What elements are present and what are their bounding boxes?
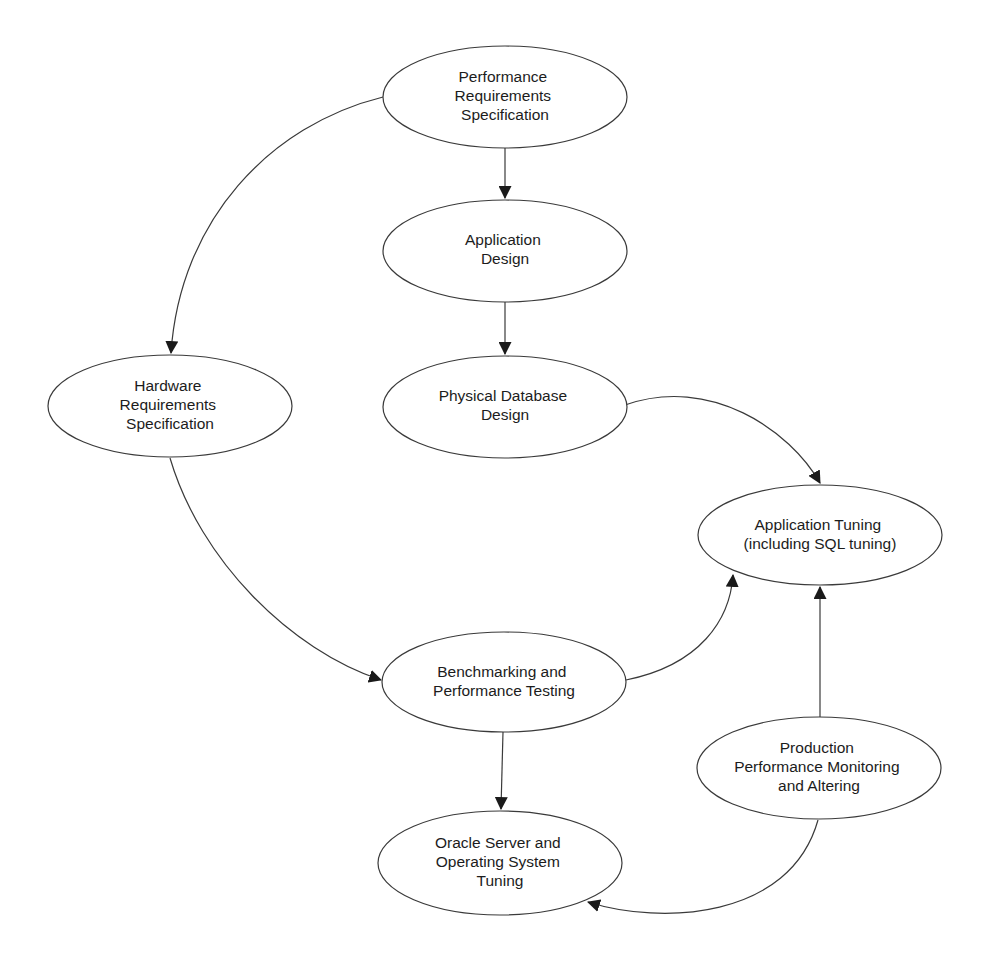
node-label: Performance Requirements Specification [455, 68, 556, 123]
node-production-monitoring: Production Performance Monitoring and Al… [697, 717, 941, 819]
node-physical-database-design: Physical Database Design [383, 356, 627, 458]
performance-tuning-flow-diagram: Performance Requirements Specification A… [0, 0, 991, 956]
edge-perf-req-to-hw-req [171, 97, 383, 353]
node-benchmarking: Benchmarking and Performance Testing [382, 632, 626, 732]
node-performance-requirements: Performance Requirements Specification [383, 46, 627, 148]
edge-hw-req-to-benchmark [170, 458, 381, 680]
node-label: Hardware Requirements Specification [120, 377, 221, 432]
edge-benchmark-to-oracle-tuning [501, 732, 503, 809]
node-application-tuning: Application Tuning (including SQL tuning… [698, 485, 942, 585]
edge-phys-db-to-app-tuning [625, 397, 820, 483]
node-oracle-os-tuning: Oracle Server and Operating System Tunin… [378, 811, 622, 915]
node-application-design: Application Design [383, 200, 627, 302]
edge-benchmark-to-app-tuning [626, 575, 733, 680]
edge-prod-monitor-to-oracle-tuning [588, 820, 818, 913]
node-hardware-requirements: Hardware Requirements Specification [48, 355, 292, 457]
